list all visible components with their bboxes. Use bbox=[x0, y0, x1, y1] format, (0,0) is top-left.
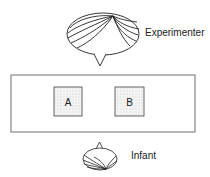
experimenter-label: Experimenter bbox=[145, 28, 204, 38]
infant-head-icon bbox=[83, 142, 117, 170]
box-a: A bbox=[54, 87, 82, 116]
experimenter-head-icon bbox=[67, 13, 139, 66]
box-b: B bbox=[115, 87, 144, 116]
box-a-label: A bbox=[65, 97, 72, 108]
infant-label: Infant bbox=[131, 151, 156, 161]
box-b-label: B bbox=[126, 97, 133, 108]
table-surface bbox=[11, 75, 195, 132]
